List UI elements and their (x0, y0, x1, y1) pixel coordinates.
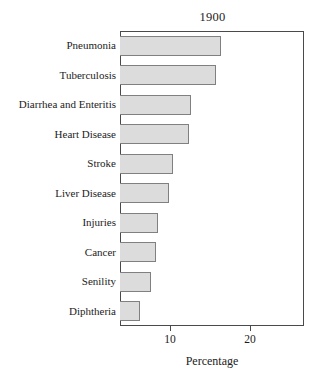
bar (120, 213, 158, 233)
bar (120, 124, 189, 144)
bar-chart: 1900 PneumoniaTuberculosisDiarrhea and E… (0, 0, 316, 380)
category-label: Liver Disease (0, 187, 116, 200)
category-label: Pneumonia (0, 39, 116, 52)
chart-title: 1900 (120, 10, 305, 24)
bar (120, 95, 191, 115)
bar (120, 183, 169, 203)
bar (120, 36, 221, 56)
bars-layer (120, 31, 304, 326)
x-tick-mark (250, 326, 251, 331)
category-label: Cancer (0, 246, 116, 259)
bar (120, 242, 156, 262)
category-label: Senility (0, 275, 116, 288)
category-label: Diarrhea and Enteritis (0, 98, 116, 111)
bar (120, 272, 151, 292)
bar (120, 154, 173, 174)
category-label: Heart Disease (0, 128, 116, 141)
x-tick-label: 20 (235, 333, 265, 346)
category-label: Tuberculosis (0, 69, 116, 82)
category-label: Stroke (0, 157, 116, 170)
category-axis-labels: PneumoniaTuberculosisDiarrhea and Enteri… (0, 31, 116, 326)
x-axis: 1020 (120, 326, 304, 354)
category-label: Injuries (0, 216, 116, 229)
bar (120, 301, 140, 321)
category-label: Diphtheria (0, 305, 116, 318)
x-tick-mark (170, 326, 171, 331)
x-axis-title: Percentage (120, 354, 304, 368)
bar (120, 65, 216, 85)
x-tick-label: 10 (155, 333, 185, 346)
